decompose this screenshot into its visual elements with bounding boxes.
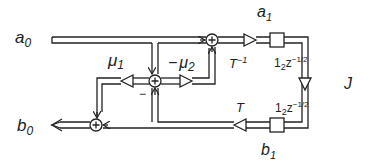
label-T: T (236, 100, 245, 115)
sum-bottom (90, 119, 102, 131)
signal-flow-diagram: a0 b0 a1 b1 μ1 −μ2 − T−1 T 12z−1/2 12z−1… (0, 0, 373, 164)
J-triangle (299, 78, 311, 90)
T-inverse-triangle (244, 34, 256, 46)
sum-top (206, 34, 218, 46)
label-minus: − (139, 87, 146, 101)
return-path (103, 88, 234, 128)
label-b1: b1 (261, 141, 276, 161)
delay-box-bottom (270, 118, 284, 132)
label-b0: b0 (17, 116, 33, 138)
sum-center (149, 75, 161, 87)
label-T-inverse: T−1 (229, 55, 247, 71)
label-mu2: −μ2 (168, 54, 195, 74)
label-delay-top: 12z−1/2 (274, 55, 308, 72)
T-triangle (234, 119, 246, 131)
mu1-gain-triangle (121, 75, 133, 87)
label-a0: a0 (15, 28, 31, 50)
label-delay-bottom: 12z−1/2 (275, 100, 309, 117)
label-mu1: μ1 (107, 51, 124, 72)
label-a1: a1 (257, 3, 272, 23)
mu2-gain-triangle (180, 75, 192, 87)
output-b0-path (52, 119, 90, 131)
label-J: J (343, 75, 353, 92)
forward-path (218, 33, 311, 132)
delay-box-top (270, 33, 284, 47)
